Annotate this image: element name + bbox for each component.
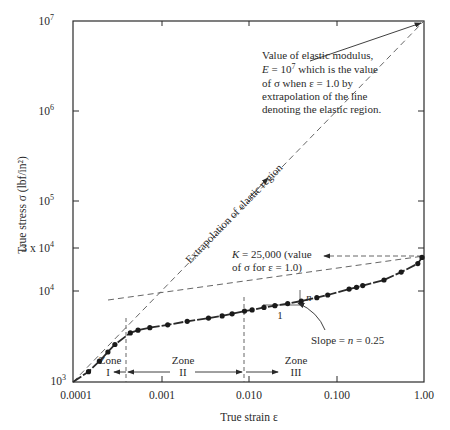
x-tick-labels: 0.0001 0.001 0.010 0.100 1.00	[60, 389, 434, 401]
y-tick-1e4: 104	[39, 283, 55, 297]
y-tick-1e6: 106	[39, 103, 55, 117]
svg-text:extrapolation of the line: extrapolation of the line	[262, 90, 367, 102]
zone-1-word: Zone	[99, 354, 122, 366]
x-tick-3: 0.100	[324, 389, 350, 401]
bottom-ticks	[162, 376, 337, 382]
data-point	[347, 287, 352, 292]
svg-text:E = 107 which is the value: E = 107 which is the value	[261, 62, 378, 75]
slope-rise-label: n	[306, 291, 312, 303]
data-point	[206, 316, 211, 321]
modulus-annotation: Value of elastic modulus, E = 107 which …	[261, 23, 421, 115]
data-point	[261, 305, 266, 310]
y-tick-1e3: 103	[51, 373, 67, 387]
zone-3-word: Zone	[285, 354, 308, 366]
data-point	[86, 369, 91, 374]
y-tick-1e5: 105	[39, 193, 55, 207]
slope-run-label: 1	[277, 309, 283, 321]
k-note-line1: K = 25,000 (value	[231, 248, 312, 261]
data-point	[185, 319, 190, 324]
data-point	[128, 330, 133, 335]
data-point	[105, 349, 110, 354]
data-point	[230, 311, 235, 316]
data-point	[220, 313, 225, 318]
data-point	[381, 277, 386, 282]
data-point	[272, 303, 277, 308]
data-point	[242, 309, 247, 314]
x-tick-0: 0.0001	[60, 389, 92, 401]
stress-strain-chart: 107 106 105 3 x 104 104 103 0.0001 0.001…	[0, 0, 450, 430]
data-point	[354, 285, 359, 290]
data-point	[250, 307, 255, 312]
zone-3-numeral: III	[291, 366, 302, 378]
data-point	[135, 328, 140, 333]
zone-2-word: Zone	[172, 354, 195, 366]
top-ticks	[162, 21, 337, 26]
data-point	[97, 359, 102, 364]
data-point	[325, 292, 330, 297]
data-point	[112, 342, 117, 347]
svg-text:of σ when ε = 1.0 by: of σ when ε = 1.0 by	[262, 77, 353, 89]
svg-text:denoting the elastic region.: denoting the elastic region.	[262, 103, 381, 115]
x-axis-title: True strain ε	[220, 411, 278, 423]
zone-2-numeral: II	[179, 366, 187, 378]
data-point	[285, 301, 290, 306]
data-curve	[73, 257, 422, 382]
data-point	[399, 270, 404, 275]
k-note-line2: of σ for ε = 1.0)	[232, 261, 302, 274]
data-point	[165, 322, 170, 327]
data-point	[299, 298, 304, 303]
data-point	[147, 325, 152, 330]
data-point	[314, 295, 319, 300]
svg-text:Value of elastic modulus,: Value of elastic modulus,	[262, 49, 373, 61]
x-tick-2: 0.010	[236, 389, 262, 401]
y-tick-1e7: 107	[39, 13, 55, 27]
data-point	[419, 255, 424, 260]
data-point	[360, 283, 365, 288]
y-axis-title: True stress σ (lbf/in²)	[16, 156, 29, 254]
x-tick-4: 1.00	[414, 389, 434, 401]
zone-1-numeral: I	[106, 366, 110, 378]
x-tick-1: 0.001	[149, 389, 175, 401]
left-ticks	[73, 111, 79, 291]
data-point	[415, 261, 420, 266]
slope-note: Slope = n = 0.25	[311, 334, 385, 346]
slope-note-arrow	[298, 303, 325, 330]
